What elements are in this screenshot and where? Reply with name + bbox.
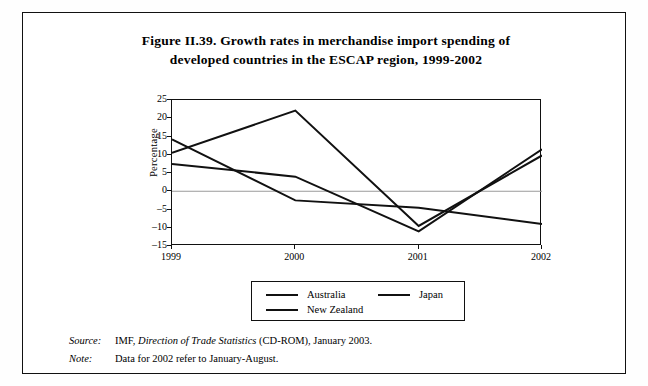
figure-notes: Source: IMF, Direction of Trade Statisti… <box>69 335 609 371</box>
legend-item-australia: Australia <box>266 289 374 300</box>
legend-row-1: Australia Japan <box>252 287 464 302</box>
x-tick-label: 2001 <box>388 251 448 262</box>
plot-box <box>171 99 541 245</box>
y-tick-label: 15 <box>133 131 167 141</box>
legend-swatch-line-icon <box>266 294 298 296</box>
y-tick-label: 25 <box>133 94 167 104</box>
chart-legend: Australia Japan New Zealand <box>251 281 465 321</box>
series-lines <box>172 100 542 246</box>
source-label: Source: <box>69 335 115 346</box>
legend-swatch-line-icon <box>378 294 410 296</box>
series-line-new-zealand <box>172 139 542 224</box>
figure-title-line-2: developed countries in the ESCAP region,… <box>83 50 569 69</box>
note-text: Data for 2002 refer to January-August. <box>115 353 609 364</box>
y-tick-label: 0 <box>133 185 167 195</box>
y-tick-label: –15 <box>133 240 167 250</box>
series-line-japan <box>172 111 542 226</box>
y-tick-label: –10 <box>133 222 167 232</box>
x-tick-label: 2002 <box>511 251 571 262</box>
figure-title: Figure II.39. Growth rates in merchandis… <box>83 31 569 69</box>
series-line-australia <box>172 149 542 231</box>
y-tick-label: 5 <box>133 167 167 177</box>
source-note: Source: IMF, Direction of Trade Statisti… <box>69 335 609 346</box>
source-text-italic: Direction of Trade Statistics <box>138 335 256 346</box>
y-tick-label: 20 <box>133 112 167 122</box>
legend-label-australia: Australia <box>307 289 346 300</box>
figure-frame: Figure II.39. Growth rates in merchandis… <box>22 12 626 374</box>
x-tick-label: 2000 <box>264 251 324 262</box>
note-label: Note: <box>69 353 115 364</box>
legend-label-japan: Japan <box>419 289 443 300</box>
x-tick-label: 1999 <box>141 251 201 262</box>
figure-page: Figure II.39. Growth rates in merchandis… <box>0 0 648 386</box>
figure-title-line-1: Figure II.39. Growth rates in merchandis… <box>83 31 569 50</box>
source-text: IMF, Direction of Trade Statistics (CD-R… <box>115 335 609 346</box>
chart-area: Percentage 2520151050–5–10–15 1999200020… <box>171 99 541 245</box>
y-tick-label: –5 <box>133 204 167 214</box>
legend-swatch-line-icon <box>266 309 298 311</box>
legend-item-japan: Japan <box>378 289 443 300</box>
source-text-pre: IMF, <box>115 335 138 346</box>
legend-item-new-zealand: New Zealand <box>266 304 374 315</box>
explanatory-note: Note: Data for 2002 refer to January-Aug… <box>69 353 609 364</box>
y-tick-label: 10 <box>133 149 167 159</box>
legend-label-new-zealand: New Zealand <box>307 304 363 315</box>
source-text-post: (CD-ROM), January 2003. <box>256 335 372 346</box>
legend-row-2: New Zealand <box>252 302 464 317</box>
